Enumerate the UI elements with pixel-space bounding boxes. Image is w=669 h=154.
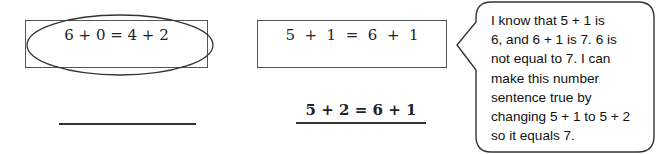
middle-answer-line	[296, 122, 426, 124]
speech-bubble-text: I know that 5 + 1 is 6, and 6 + 1 is 7. …	[491, 11, 630, 145]
bubble-line: not equal to 7. I can	[491, 49, 630, 68]
bubble-line: changing 5 + 1 to 5 + 2	[491, 107, 630, 126]
bubble-line: 6, and 6 + 1 is 7. 6 is	[491, 30, 630, 49]
bubble-line: so it equals 7.	[491, 126, 630, 145]
left-answer-line	[59, 123, 196, 125]
bubble-line: make this number	[491, 69, 630, 88]
bubble-line: sentence true by	[491, 88, 630, 107]
bubble-line: I know that 5 + 1 is	[491, 11, 630, 30]
corrected-equation: 5 + 2 = 6 + 1	[296, 101, 426, 119]
middle-equation: 5 + 1 = 6 + 1	[257, 26, 447, 44]
